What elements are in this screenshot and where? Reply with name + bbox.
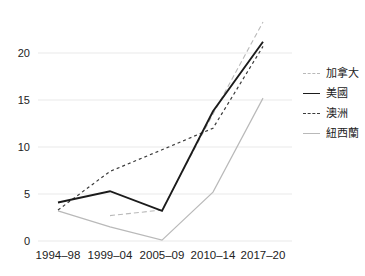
dashed-line-swatch-icon	[303, 73, 320, 74]
y-tick-label: 0	[24, 235, 30, 247]
legend-item-canada: 加拿大	[303, 67, 359, 79]
legend-item-newzealand: 紐西蘭	[303, 127, 359, 139]
dashed-line-swatch-icon	[303, 113, 320, 114]
legend-label: 澳洲	[326, 107, 348, 119]
legend-label: 美國	[326, 87, 348, 99]
y-tick-label: 5	[24, 188, 30, 200]
x-tick-label: 1999–04	[88, 249, 133, 261]
y-tick-label: 20	[18, 47, 30, 59]
x-tick-label: 2017–20	[241, 249, 286, 261]
legend-item-usa: 美國	[303, 87, 359, 99]
chart-legend: 加拿大 美國 澳洲 紐西蘭	[303, 67, 359, 139]
chart-figure: 051015201994–981999–042005–092010–142017…	[0, 0, 365, 276]
x-tick-label: 2005–09	[140, 249, 185, 261]
legend-item-australia: 澳洲	[303, 107, 359, 119]
legend-label: 紐西蘭	[326, 127, 359, 139]
solid-line-swatch-icon	[303, 133, 320, 134]
legend-label: 加拿大	[326, 67, 359, 79]
y-tick-label: 10	[18, 141, 30, 153]
series-line-2	[58, 46, 263, 210]
solid-line-swatch-icon	[303, 93, 320, 94]
series-line-0	[110, 22, 263, 216]
y-tick-label: 15	[18, 94, 30, 106]
x-tick-label: 1994–98	[36, 249, 81, 261]
series-line-3	[58, 98, 263, 240]
x-tick-label: 2010–14	[191, 249, 236, 261]
series-line-1	[58, 42, 263, 211]
